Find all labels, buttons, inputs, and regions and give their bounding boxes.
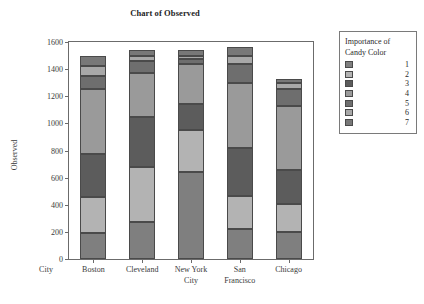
y-axis-title-text: Observed	[10, 105, 19, 205]
bar-segment[interactable]	[129, 50, 155, 56]
y-tick-mark	[65, 205, 69, 206]
stacked-bar[interactable]	[227, 47, 253, 259]
y-tick-label: 800	[51, 146, 63, 155]
x-axis-row-label: City	[26, 265, 66, 274]
stacked-bar[interactable]	[80, 56, 106, 259]
legend-entry[interactable]: 5	[345, 98, 412, 108]
bar-segment[interactable]	[178, 59, 204, 64]
legend-title-line-2: Candy Color	[345, 48, 386, 57]
legend-entry-label: 2	[353, 70, 412, 79]
legend-entry[interactable]: 2	[345, 70, 412, 80]
y-tick-label: 1200	[47, 92, 63, 101]
legend-entry[interactable]: 4	[345, 89, 412, 99]
y-tick-mark	[65, 69, 69, 70]
bar-segment[interactable]	[129, 117, 155, 167]
bar-segment[interactable]	[227, 196, 253, 229]
bar-segment[interactable]	[227, 56, 253, 64]
bar-segment[interactable]	[276, 204, 302, 232]
bar-segment[interactable]	[276, 89, 302, 106]
y-tick-label: 400	[51, 200, 63, 209]
y-tick-label: 1600	[47, 38, 63, 47]
legend-entries: 1234567	[345, 60, 412, 127]
y-tick-mark	[65, 178, 69, 179]
bar-segment[interactable]	[178, 64, 204, 105]
bar-segment[interactable]	[227, 229, 253, 259]
bar-segment[interactable]	[80, 56, 106, 66]
y-tick-mark	[65, 151, 69, 152]
bar-segment[interactable]	[129, 222, 155, 259]
bar-segment[interactable]	[129, 167, 155, 221]
y-axis-title: Observed	[10, 5, 19, 105]
y-tick-mark	[65, 96, 69, 97]
bar-segment[interactable]	[80, 233, 106, 259]
legend-swatch-icon	[345, 61, 353, 68]
legend-entry-label: 3	[353, 79, 412, 88]
bar-segment[interactable]	[80, 89, 106, 153]
bar-segment[interactable]	[80, 154, 106, 197]
legend-entry-label: 4	[353, 89, 412, 98]
legend-entry-label: 5	[353, 99, 412, 108]
x-tick-mark	[142, 259, 143, 263]
plot-surface: 02004006008001000120014001600	[69, 42, 313, 259]
bar-segment[interactable]	[178, 104, 204, 130]
legend-swatch-icon	[345, 119, 353, 126]
legend-swatch-icon	[345, 80, 353, 87]
bar-segment[interactable]	[80, 76, 106, 90]
chart-title: Chart of Observed	[0, 8, 330, 18]
legend-title: Importance of Candy Color	[345, 37, 412, 58]
y-tick-mark	[65, 123, 69, 124]
legend-swatch-icon	[345, 100, 353, 107]
legend-title-line-1: Importance of	[345, 37, 390, 46]
legend-entry-label: 6	[353, 108, 412, 117]
legend-entry[interactable]: 6	[345, 108, 412, 118]
y-tick-mark	[65, 232, 69, 233]
legend-swatch-icon	[345, 109, 353, 116]
stacked-bar[interactable]	[129, 50, 155, 259]
x-axis-label-line-2: Francisco	[205, 276, 275, 287]
bar-segment[interactable]	[276, 79, 302, 83]
bar-segment[interactable]	[227, 47, 253, 56]
y-tick-label: 1000	[47, 119, 63, 128]
bar-segment[interactable]	[129, 61, 155, 73]
x-tick-mark	[240, 259, 241, 263]
y-tick-label: 200	[51, 227, 63, 236]
x-tick-mark	[93, 259, 94, 263]
y-tick-mark	[65, 42, 69, 43]
bar-segment[interactable]	[80, 66, 106, 76]
bar-segment[interactable]	[129, 56, 155, 61]
bar-segment[interactable]	[178, 50, 204, 55]
x-axis-label: Chicago	[254, 265, 324, 276]
y-tick-label: 0	[59, 255, 63, 264]
legend-entry-label: 1	[353, 60, 412, 69]
legend-entry[interactable]: 3	[345, 79, 412, 89]
stacked-bar[interactable]	[178, 50, 204, 259]
bar-segment[interactable]	[129, 73, 155, 117]
stacked-bar[interactable]	[276, 79, 302, 259]
x-axis-label-line-1: Chicago	[254, 265, 324, 276]
legend-entry-label: 7	[353, 118, 412, 127]
x-tick-mark	[191, 259, 192, 263]
y-tick-label: 600	[51, 173, 63, 182]
bar-segment[interactable]	[178, 130, 204, 172]
plot-area: 02004006008001000120014001600	[68, 41, 314, 260]
bar-segment[interactable]	[178, 172, 204, 259]
y-tick-mark	[65, 259, 69, 260]
legend-swatch-icon	[345, 71, 353, 78]
x-tick-mark	[289, 259, 290, 263]
bar-segment[interactable]	[227, 64, 253, 82]
bar-segment[interactable]	[227, 83, 253, 149]
legend-entry[interactable]: 1	[345, 60, 412, 70]
bar-segment[interactable]	[178, 56, 204, 59]
bar-segment[interactable]	[276, 106, 302, 170]
y-tick-label: 1400	[47, 65, 63, 74]
chart-of-observed: Chart of Observed Observed 0200400600800…	[0, 0, 424, 304]
legend-entry[interactable]: 7	[345, 118, 412, 128]
legend-swatch-icon	[345, 90, 353, 97]
bar-segment[interactable]	[276, 83, 302, 88]
bar-segment[interactable]	[80, 197, 106, 232]
bar-segment[interactable]	[276, 170, 302, 204]
bar-segment[interactable]	[227, 148, 253, 195]
bar-segment[interactable]	[276, 232, 302, 259]
legend: Importance of Candy Color 1234567	[339, 31, 417, 134]
